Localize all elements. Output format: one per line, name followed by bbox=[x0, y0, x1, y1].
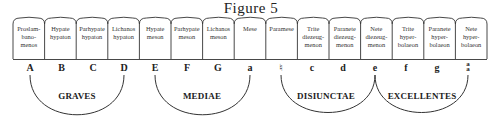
note-letter-b-natural: ♮ bbox=[271, 62, 291, 73]
note-letter-f: f bbox=[396, 62, 416, 73]
note-letter-D: D bbox=[114, 62, 134, 73]
box-outlines bbox=[13, 17, 487, 59]
note-letter-F: F bbox=[177, 62, 197, 73]
note-letter-C: C bbox=[83, 62, 103, 73]
note-letter-aa: aa bbox=[465, 62, 471, 72]
note-letter-g: g bbox=[427, 62, 447, 73]
note-letter-d: d bbox=[333, 62, 353, 73]
group-label-mediae: MEDIAE bbox=[142, 91, 262, 101]
note-letter-B: B bbox=[52, 62, 72, 73]
note-letter-a: a bbox=[240, 62, 260, 73]
group-label-excellentes: EXCELLENTES bbox=[362, 91, 482, 101]
note-letter-c: c bbox=[302, 62, 322, 73]
note-letter-E: E bbox=[145, 62, 165, 73]
note-letter-G: G bbox=[208, 62, 228, 73]
note-letter-e: e bbox=[365, 62, 385, 73]
group-label-graves: GRAVES bbox=[17, 91, 137, 101]
note-letter-A: A bbox=[20, 62, 40, 73]
